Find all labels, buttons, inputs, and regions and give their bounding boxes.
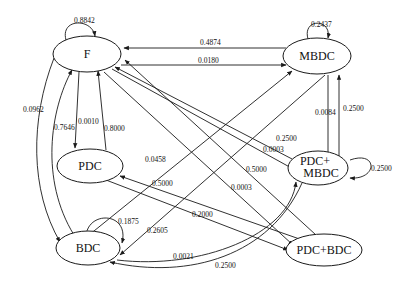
edge-bdc-to-mbdc	[89, 71, 292, 235]
node-mbdc-label: MBDC	[299, 49, 334, 63]
edge-label-pdc-to-f: 0.8000	[104, 124, 125, 133]
node-bdc: BDC	[56, 231, 120, 265]
edge-label-pdcmbdc-to-f: 0.2500	[276, 134, 297, 143]
node-pdc-label: PDC	[78, 159, 101, 173]
edge-label-mbdc-to-bdc: 0.2605	[147, 226, 168, 235]
edge-f-to-bdc	[37, 58, 60, 242]
node-pdc-mbdc-label-line2: MBDC	[303, 166, 338, 180]
edge-label-pdcmbdc-to-bdc: 0.2500	[215, 261, 236, 270]
edge-label-pdcmbdc-self: 0.2500	[371, 164, 392, 173]
node-bdc-label: BDC	[76, 241, 101, 255]
edge-bdc-to-pdcmbdc	[117, 182, 296, 262]
edge-label-f-self: 0.8842	[74, 16, 95, 25]
node-pdc-bdc: PDC+BDC	[286, 234, 362, 266]
edge-label-f-to-pdc: 0.0010	[78, 117, 99, 126]
edge-label-bdc-to-f: 0.7646	[54, 123, 75, 132]
edge-label-pdcmbdc-to-mbdc: 0.2500	[343, 104, 364, 113]
edge-f-to-pdc	[75, 72, 79, 148]
edge-label-mbdc-to-f: 0.4874	[200, 38, 221, 47]
node-pdc: PDC	[57, 149, 123, 183]
edge-label-pdcbdc-to-pdc: 0.5000	[152, 179, 173, 188]
node-pdc-bdc-label: PDC+BDC	[297, 243, 352, 257]
node-f: F	[53, 36, 121, 72]
edge-label-mbdc-to-pdcmbdc: 0.0084	[315, 108, 336, 117]
node-pdc-mbdc: PDC+ MBDC	[288, 151, 348, 185]
edge-pdcmbdc-to-f	[115, 67, 294, 160]
edge-label-bdc-self: 0.1875	[118, 217, 139, 226]
edge-label-mbdc-self: 0.2437	[311, 20, 332, 29]
edge-label-pdc-to-pdcbdc: 0.2000	[192, 210, 213, 219]
edge-label-f-to-mbdc: 0.0180	[198, 56, 219, 65]
edge-f-to-pdcmbdc	[112, 69, 295, 170]
edge-label-bdc-to-pdcmbdc: 0.0021	[173, 252, 194, 261]
edge-label-f-to-pdcbdc: 0.0003	[231, 183, 252, 192]
edge-label-pdcbdc-to-f: 0.5000	[246, 165, 267, 174]
edge-label-f-to-bdc: 0.0962	[23, 105, 44, 114]
node-f-label: F	[84, 47, 91, 61]
edge-label-bdc-to-mbdc: 0.0458	[145, 155, 166, 164]
node-mbdc: MBDC	[283, 38, 351, 74]
edge-pdcmbdc-self	[350, 158, 371, 178]
state-transition-diagram: 0.8842 0.2437 0.4874 0.0180 0.0962 0.764…	[0, 0, 408, 287]
edge-pdc-to-f	[98, 71, 106, 150]
